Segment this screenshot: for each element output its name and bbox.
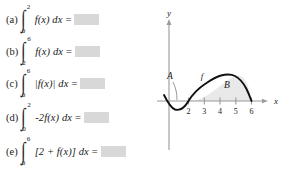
integrand-c: |f(x)| dx — [35, 78, 69, 89]
region-a-leader-line — [173, 82, 177, 100]
equals-sign-e: = — [92, 146, 98, 157]
integral-upper-limit-c: 6 — [27, 67, 31, 75]
x-axis-label: x — [273, 96, 278, 106]
integral-upper-limit-a: 2 — [27, 3, 31, 11]
answer-box-b[interactable] — [75, 46, 100, 57]
problem-item-c: (c) 6 ∫ 0 |f(x)| dx = — [6, 68, 105, 98]
integral-lower-limit-c: 0 — [22, 91, 26, 99]
equals-sign-d: = — [75, 112, 81, 123]
region-a-label: A — [166, 71, 173, 81]
answer-box-e[interactable] — [101, 146, 126, 157]
problem-list: (a) 2 ∫ 0 f(x) dx = (b) 6 ∫ 2 f(x) dx = … — [0, 0, 160, 170]
integrand-e: [2 + f(x)] dx — [35, 146, 89, 157]
integrand-a: f(x) dx — [35, 14, 63, 25]
integrand-d: -2f(x) dx — [35, 112, 72, 123]
integral-lower-limit-b: 2 — [22, 59, 26, 67]
problem-label-b: (b) — [6, 46, 18, 57]
y-axis-arrow-icon — [167, 19, 172, 25]
integral-upper-limit-b: 6 — [27, 35, 31, 43]
integral-lower-limit-d: 0 — [22, 125, 26, 133]
curve-name-label: f — [201, 71, 205, 81]
equals-sign-b: = — [66, 46, 72, 57]
x-tick-label-6: 6 — [250, 107, 254, 116]
integral-symbol-e: 6 ∫ 0 — [20, 136, 34, 166]
answer-box-d[interactable] — [84, 112, 109, 123]
x-tick-label-3: 3 — [202, 107, 206, 116]
integral-lower-limit-e: 0 — [22, 159, 26, 167]
problem-item-e: (e) 6 ∫ 0 [2 + f(x)] dx = — [6, 136, 126, 166]
problem-item-a: (a) 2 ∫ 0 f(x) dx = — [6, 4, 99, 34]
equals-sign-c: = — [71, 78, 77, 89]
x-axis-arrow-icon — [262, 99, 268, 104]
x-tick-label-5: 5 — [234, 107, 238, 116]
answer-box-c[interactable] — [80, 78, 105, 89]
integral-upper-limit-d: 2 — [27, 101, 31, 109]
problem-label-a: (a) — [6, 14, 18, 25]
integral-symbol-c: 6 ∫ 0 — [20, 68, 34, 98]
integral-symbol-d: 2 ∫ 0 — [20, 102, 34, 132]
problem-label-d: (d) — [6, 112, 18, 123]
x-tick-label-4: 4 — [218, 107, 222, 116]
integral-lower-limit-a: 0 — [22, 27, 26, 35]
function-graph: 2 3 4 5 6 A B f y x — [155, 0, 281, 170]
integral-upper-limit-e: 6 — [27, 135, 31, 143]
problem-label-e: (e) — [6, 146, 18, 157]
integrand-b: f(x) dx — [35, 46, 63, 57]
integral-symbol-a: 2 ∫ 0 — [20, 4, 34, 34]
answer-box-a[interactable] — [74, 14, 99, 25]
region-b-label: B — [224, 80, 230, 90]
exercise-figure: (a) 2 ∫ 0 f(x) dx = (b) 6 ∫ 2 f(x) dx = … — [0, 0, 281, 170]
problem-label-c: (c) — [6, 78, 18, 89]
y-axis-label: y — [166, 8, 171, 18]
equals-sign-a: = — [65, 14, 71, 25]
x-tick-label-2: 2 — [187, 107, 191, 116]
problem-item-b: (b) 6 ∫ 2 f(x) dx = — [6, 36, 100, 66]
problem-item-d: (d) 2 ∫ 0 -2f(x) dx = — [6, 102, 109, 132]
integral-symbol-b: 6 ∫ 2 — [20, 36, 34, 66]
